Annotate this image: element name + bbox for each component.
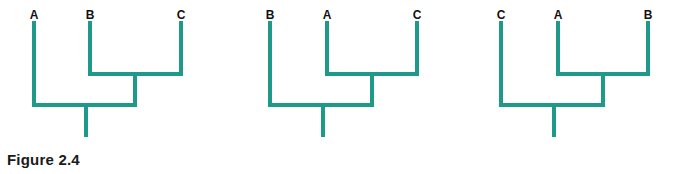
cladogram-figure: ABCBACCAB xyxy=(0,0,673,174)
figure-caption: Figure 2.4 xyxy=(7,151,80,168)
taxon-label-c: C xyxy=(413,8,422,22)
taxon-label-b: B xyxy=(86,8,95,22)
taxon-label-a: A xyxy=(30,8,39,22)
cladogram-tree-2: BAC xyxy=(266,8,422,135)
taxon-label-c: C xyxy=(497,8,506,22)
taxon-label-b: B xyxy=(266,8,275,22)
taxon-label-b: B xyxy=(644,8,653,22)
taxon-label-a: A xyxy=(323,8,332,22)
taxon-label-c: C xyxy=(177,8,186,22)
cladogram-tree-3: CAB xyxy=(497,8,653,135)
cladogram-tree-1: ABC xyxy=(30,8,186,135)
taxon-label-a: A xyxy=(554,8,563,22)
